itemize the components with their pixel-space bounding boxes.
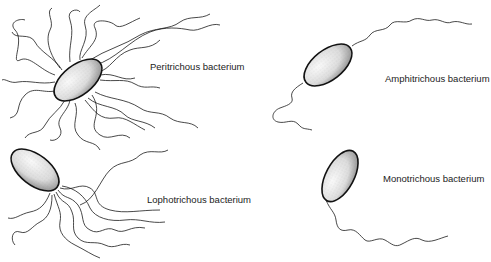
peritrichous-label: Peritrichous bacterium (150, 62, 245, 72)
flagella-diagram: Peritrichous bacterium Amphitrichous bac… (0, 0, 491, 262)
lophotrichous-label: Lophotrichous bacterium (147, 195, 251, 205)
monotrichous-flagellum (326, 200, 448, 246)
peritrichous-cell-body (47, 51, 110, 109)
amphitrichous-label: Amphitrichous bacterium (385, 74, 490, 84)
monotrichous-cell-body (314, 145, 365, 208)
lophotrichous-cell-body (4, 141, 67, 199)
peritrichous-bacterium-drawing (2, 5, 220, 150)
amphitrichous-cell-body (297, 36, 360, 94)
diagram-artwork (0, 0, 491, 262)
monotrichous-label: Monotrichous bacterium (383, 174, 484, 184)
